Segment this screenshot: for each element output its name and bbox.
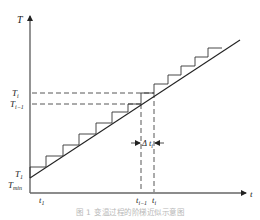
temperature-ramp-line — [30, 40, 240, 178]
y-axis-label: T — [17, 14, 24, 25]
delta-t-label: Δ ti — [141, 138, 153, 149]
label-t1-time: t1 — [39, 195, 44, 206]
delta-t-interval: Δ ti — [131, 138, 164, 149]
label-ti: Ti — [12, 88, 19, 99]
label-ti-minus-1: Ti−1 — [10, 99, 24, 110]
figure-caption: 图 1 变温过程的阶梯近似示意图 — [0, 206, 260, 217]
label-ti-minus-1-time: ti−1 — [136, 195, 147, 206]
staircase-temperature-diagram: T t Ti Ti−1 T1 Tmin t1 ti−1 — [0, 0, 260, 220]
label-tmin: Tmin — [8, 180, 22, 191]
label-t1-temp: T1 — [15, 169, 23, 180]
label-ti-time: ti — [152, 195, 156, 206]
x-axis-label: t — [250, 189, 253, 199]
